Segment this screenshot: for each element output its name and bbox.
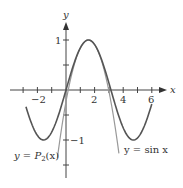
sin-curve-label: y = sin x bbox=[123, 144, 168, 155]
x-axis-arrow-icon bbox=[159, 87, 167, 93]
y-tick-label-1: 1 bbox=[55, 35, 61, 46]
x-tick-label-2: 2 bbox=[91, 94, 97, 105]
chart-canvas: y x −2 2 4 6 1 −1 y = P2(x) y = sin x bbox=[0, 0, 183, 188]
y-tick-label-m1: −1 bbox=[70, 135, 85, 146]
y-axis-label: y bbox=[62, 9, 69, 20]
x-axis-label: x bbox=[170, 84, 176, 95]
p2-curve-label: y = P2(x) bbox=[13, 150, 59, 163]
x-tick-label-m2: −2 bbox=[31, 94, 46, 105]
x-tick-label-4: 4 bbox=[120, 94, 126, 105]
y-axis-arrow-icon bbox=[63, 22, 69, 30]
x-tick-label-6: 6 bbox=[148, 94, 154, 105]
